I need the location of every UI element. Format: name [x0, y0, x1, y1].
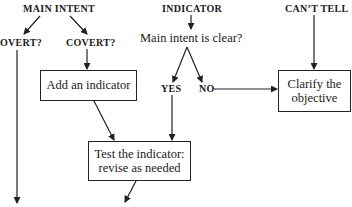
- label-main-intent: MAIN INTENT: [23, 4, 95, 14]
- box-test-line2: revise as needed: [99, 161, 181, 175]
- arrow-question-to-no: [187, 47, 202, 82]
- arrow-main-to-overt: [24, 16, 40, 34]
- arrow-add-to-test: [94, 101, 114, 140]
- label-yes: YES: [161, 84, 181, 94]
- box-clarify-objective: Clarify the objective: [278, 70, 351, 112]
- box-add-indicator: Add an indicator: [40, 70, 137, 101]
- arrow-main-to-covert: [70, 16, 87, 34]
- box-clarify-line1: Clarify the: [288, 77, 342, 91]
- box-test-indicator: Test the indicator: revise as needed: [88, 141, 191, 181]
- label-covert: COVERT?: [66, 38, 116, 48]
- label-no: NO: [199, 84, 215, 94]
- label-overt: OVERT?: [0, 38, 42, 48]
- arrow-test-down: [125, 181, 136, 202]
- arrow-question-to-yes: [173, 47, 187, 82]
- label-cant-tell: CAN’T TELL: [285, 4, 348, 14]
- box-clarify-line2: objective: [292, 91, 338, 105]
- label-indicator: INDICATOR: [162, 4, 222, 14]
- label-question: Main intent is clear?: [140, 32, 242, 45]
- box-add-indicator-text: Add an indicator: [46, 78, 130, 92]
- box-test-line1: Test the indicator:: [94, 147, 184, 161]
